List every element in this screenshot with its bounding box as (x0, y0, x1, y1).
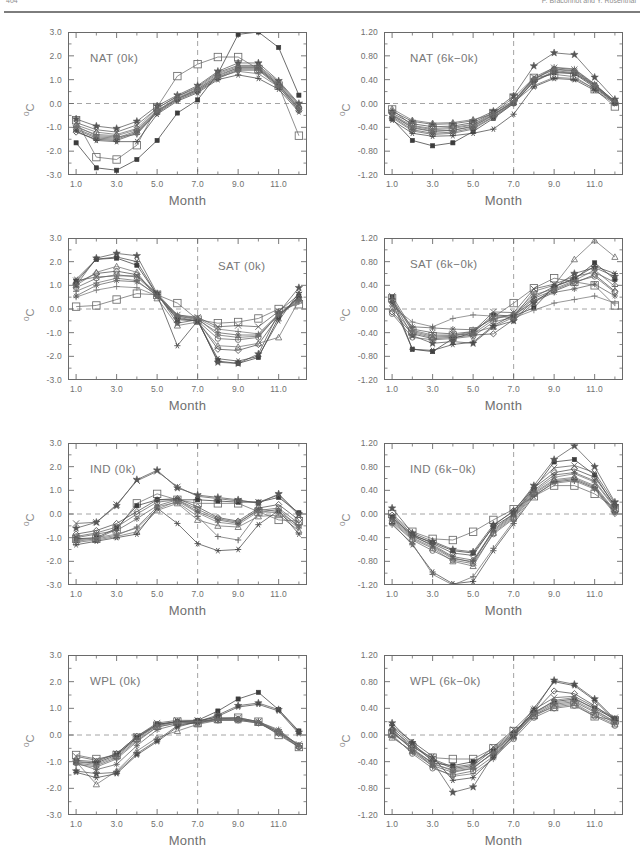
x-tick-label: 11.0 (581, 385, 609, 393)
y-tick-label: 0.40 (344, 76, 378, 84)
y-tick-label: 1.0 (28, 486, 62, 494)
x-tick-label: 9.0 (540, 180, 568, 188)
x-tick-label: 11.0 (265, 180, 293, 188)
y-tick-label: 2.0 (28, 678, 62, 686)
y-tick-label: -0.40 (344, 329, 378, 337)
y-tick-label: 1.0 (28, 704, 62, 712)
x-tick-label: 5.0 (459, 180, 487, 188)
y-tick-label: -1.0 (28, 329, 62, 337)
x-axis-title: Month (68, 398, 307, 413)
panel-title-wpl-6k-0k: WPL (6k−0k) (410, 675, 481, 687)
x-axis-title: Month (68, 833, 307, 848)
x-tick-label: 9.0 (540, 820, 568, 828)
chart-panel-sat-6k-0k: SAT (6k−0k) (384, 238, 623, 380)
panel-title-ind-6k-0k: IND (6k−0k) (410, 463, 476, 475)
x-axis-title: Month (384, 193, 623, 208)
panel-title-sat-6k-0k: SAT (6k−0k) (410, 258, 478, 270)
x-tick-label: 5.0 (459, 820, 487, 828)
y-tick-label: -0.80 (344, 784, 378, 792)
x-tick-label: 1.0 (378, 590, 406, 598)
y-tick-label: 1.0 (28, 281, 62, 289)
x-tick-label: 7.0 (184, 385, 212, 393)
y-tick-label: 2.0 (28, 463, 62, 471)
x-tick-label: 11.0 (581, 180, 609, 188)
chart-panel-wpl-6k-0k: WPL (6k−0k) (384, 655, 623, 815)
y-tick-label: -2.0 (28, 352, 62, 360)
y-tick-label: 0.40 (344, 704, 378, 712)
x-tick-label: 3.0 (419, 820, 447, 828)
chart-panel-wpl-0k: WPL (0k) (68, 655, 307, 815)
x-tick-label: 7.0 (500, 590, 528, 598)
x-tick-label: 3.0 (103, 385, 131, 393)
y-tick-label: -3.0 (28, 376, 62, 384)
plot-frame (68, 238, 307, 380)
y-tick-label: -3.0 (28, 171, 62, 179)
x-tick-label: 3.0 (103, 820, 131, 828)
panel-title-sat-0k: SAT (0k) (218, 260, 266, 272)
y-tick-label: -1.20 (344, 811, 378, 819)
x-tick-label: 7.0 (184, 590, 212, 598)
x-tick-label: 5.0 (143, 820, 171, 828)
y-tick-label: 1.20 (344, 28, 378, 36)
y-tick-label: -1.0 (28, 758, 62, 766)
x-axis-title: Month (68, 603, 307, 618)
x-tick-label: 5.0 (459, 385, 487, 393)
x-tick-label: 7.0 (500, 820, 528, 828)
y-tick-label: -0.40 (344, 758, 378, 766)
y-tick-label: -3.0 (28, 581, 62, 589)
y-tick-label: -0.80 (344, 557, 378, 565)
x-tick-label: 3.0 (103, 590, 131, 598)
panel-title-wpl-0k: WPL (0k) (90, 675, 141, 687)
chart-panel-ind-0k: IND (0k) (68, 443, 307, 585)
x-axis-title: Month (68, 193, 307, 208)
y-axis-title: 0C (22, 309, 36, 321)
y-tick-label: 2.0 (28, 258, 62, 266)
y-tick-label: 0.80 (344, 52, 378, 60)
y-axis-title: 0C (338, 309, 352, 321)
y-tick-label: 1.20 (344, 234, 378, 242)
y-tick-label: -2.0 (28, 147, 62, 155)
x-tick-label: 9.0 (540, 385, 568, 393)
x-tick-label: 3.0 (419, 180, 447, 188)
y-tick-label: -0.40 (344, 123, 378, 131)
y-axis-title: 0C (22, 103, 36, 115)
y-axis-title: 0C (338, 735, 352, 747)
y-tick-label: -0.80 (344, 147, 378, 155)
x-tick-label: 1.0 (62, 590, 90, 598)
y-tick-label: -0.40 (344, 534, 378, 542)
header-rule (4, 11, 640, 13)
running-head: 404 P. Braconnot and Y. Rosenthal (0, 0, 644, 14)
y-tick-label: 0.80 (344, 463, 378, 471)
y-tick-label: -3.0 (28, 811, 62, 819)
y-axis-title: 0C (338, 514, 352, 526)
y-tick-label: 3.0 (28, 439, 62, 447)
y-tick-label: -1.20 (344, 376, 378, 384)
x-tick-label: 11.0 (581, 820, 609, 828)
y-tick-label: 3.0 (28, 28, 62, 36)
x-tick-label: 5.0 (459, 590, 487, 598)
y-tick-label: 0.80 (344, 258, 378, 266)
y-tick-label: 0.40 (344, 281, 378, 289)
y-tick-label: -1.20 (344, 581, 378, 589)
panel-title-ind-0k: IND (0k) (90, 463, 136, 475)
x-tick-label: 7.0 (184, 180, 212, 188)
x-tick-label: 3.0 (419, 590, 447, 598)
y-tick-label: 0.40 (344, 486, 378, 494)
x-tick-label: 11.0 (581, 590, 609, 598)
x-tick-label: 1.0 (62, 180, 90, 188)
x-tick-label: 1.0 (378, 180, 406, 188)
y-tick-label: 1.20 (344, 651, 378, 659)
y-tick-label: 3.0 (28, 651, 62, 659)
y-axis-title: 0C (22, 514, 36, 526)
y-tick-label: 1.20 (344, 439, 378, 447)
x-tick-label: 1.0 (62, 385, 90, 393)
x-tick-label: 9.0 (224, 820, 252, 828)
x-tick-label: 1.0 (62, 820, 90, 828)
y-tick-label: -1.0 (28, 534, 62, 542)
chart-panel-ind-6k-0k: IND (6k−0k) (384, 443, 623, 585)
x-tick-label: 11.0 (265, 820, 293, 828)
x-tick-label: 9.0 (224, 385, 252, 393)
running-head-authors: P. Braconnot and Y. Rosenthal (542, 0, 636, 4)
x-tick-label: 9.0 (224, 590, 252, 598)
chart-panel-sat-0k: SAT (0k) (68, 238, 307, 380)
